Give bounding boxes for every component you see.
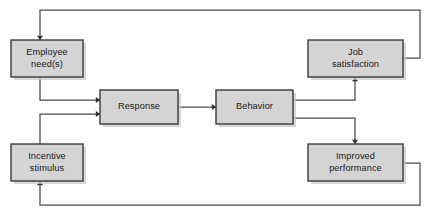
employee-needs-box-label-line-0: Employee: [26, 47, 68, 57]
connector-employee-needs-to-response: [40, 77, 100, 103]
response-box[interactable]: Response: [100, 90, 181, 127]
employee-needs-box[interactable]: Employeeneed(s): [11, 40, 86, 80]
connector-employee-needs-to-response-line: [40, 77, 100, 100]
job-satisfaction-box-label-line-1: satisfaction: [332, 59, 379, 69]
response-box-label-line-0: Response: [118, 101, 160, 111]
connector-incentive-stimulus-to-response-line: [40, 114, 100, 144]
improved-performance-box[interactable]: Improvedperformance: [308, 144, 406, 184]
connector-behavior-to-improved-performance-line: [293, 118, 355, 144]
incentive-stimulus-box-label-line-0: Incentive: [28, 151, 66, 161]
improved-performance-box-label-line-0: Improved: [336, 151, 375, 161]
connector-response-to-behavior: [178, 104, 216, 110]
connector-behavior-to-job-satisfaction-line: [293, 77, 355, 100]
connector-behavior-to-job-satisfaction: [293, 77, 358, 100]
employee-needs-box-label-line-1: need(s): [31, 59, 63, 69]
job-satisfaction-box[interactable]: Jobsatisfaction: [308, 40, 406, 80]
improved-performance-box-label-line-1: performance: [329, 163, 382, 173]
incentive-stimulus-box[interactable]: Incentivestimulus: [11, 144, 86, 184]
behavior-box-label-line-0: Behavior: [236, 101, 273, 111]
node-layer: Employeeneed(s)IncentivestimulusResponse…: [11, 40, 406, 184]
incentive-stimulus-box-label-line-1: stimulus: [30, 163, 65, 173]
connector-behavior-to-improved-performance: [293, 118, 358, 144]
flow-diagram: Motivation process flow diagram Employee…: [0, 0, 426, 214]
connector-incentive-stimulus-to-response: [40, 111, 100, 144]
behavior-box[interactable]: Behavior: [216, 90, 296, 127]
job-satisfaction-box-label-line-0: Job: [348, 47, 363, 57]
diagram-canvas: Motivation process flow diagram Employee…: [0, 0, 426, 214]
